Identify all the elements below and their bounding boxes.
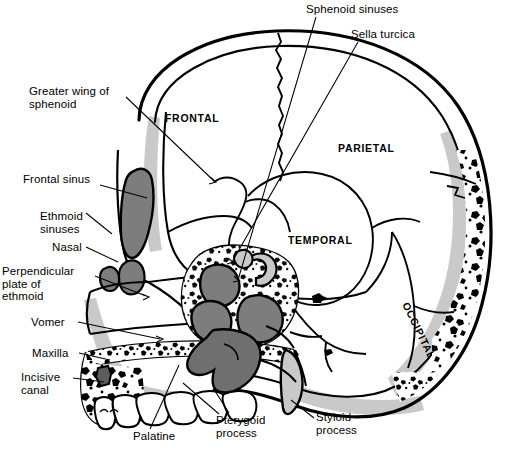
- callout-pterygoid-process: Pterygoid process: [216, 414, 265, 439]
- skull-sagittal-figure: FRONTAL PARIETAL TEMPORAL OCCIPITAL Grea…: [0, 0, 515, 450]
- callout-vomer: Vomer: [31, 316, 65, 329]
- ethmoid-sinus-cells: [100, 260, 145, 294]
- callout-styloid-process: Styloid process: [316, 411, 357, 436]
- leader-nasal: [86, 247, 118, 262]
- incisive-canal-cavity: [96, 366, 111, 386]
- callout-maxilla: Maxilla: [32, 347, 69, 360]
- sphenoid-sinus-upper: [200, 265, 239, 307]
- leader-vomer: [78, 322, 160, 339]
- pterygoid-process-structure: [187, 329, 260, 392]
- callout-sphenoid-sinuses: Sphenoid sinuses: [306, 3, 398, 16]
- callout-greater-wing-of-sphenoid: Greater wing of sphenoid: [29, 85, 109, 110]
- bone-label-frontal: FRONTAL: [165, 112, 219, 125]
- frontal-sinus-cavity: [121, 169, 154, 258]
- bone-label-parietal: PARIETAL: [338, 142, 395, 155]
- callout-ethmoid-sinuses: Ethmoid sinuses: [40, 210, 83, 235]
- callout-sella-turcica: Sella turcica: [351, 28, 415, 41]
- callout-nasal: Nasal: [52, 241, 82, 254]
- callout-perpendicular-plate-of-ethmoid: Perpendicular plate of ethmoid: [2, 265, 74, 303]
- callout-frontal-sinus: Frontal sinus: [23, 173, 90, 186]
- bone-label-temporal: TEMPORAL: [288, 234, 353, 247]
- leader-ethmoid-sinuses: [86, 213, 112, 234]
- callout-incisive-canal: Incisive canal: [21, 371, 60, 396]
- callout-palatine: Palatine: [133, 430, 175, 443]
